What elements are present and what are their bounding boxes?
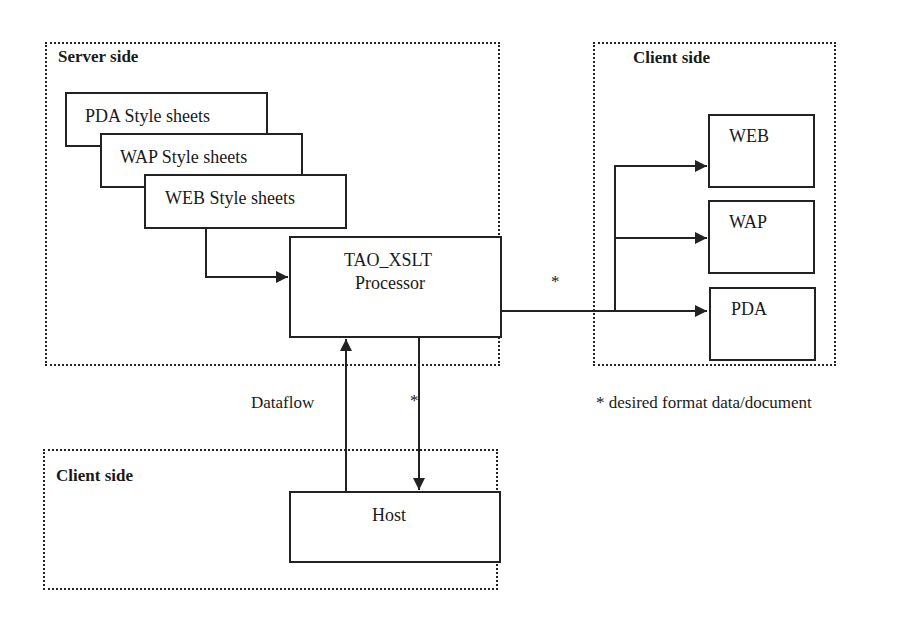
host-star-label: * xyxy=(410,391,419,411)
dataflow-label: Dataflow xyxy=(251,393,314,413)
output-star-label: * xyxy=(551,272,560,292)
connector-lines xyxy=(0,0,904,619)
footnote: * desired format data/document xyxy=(596,393,812,413)
